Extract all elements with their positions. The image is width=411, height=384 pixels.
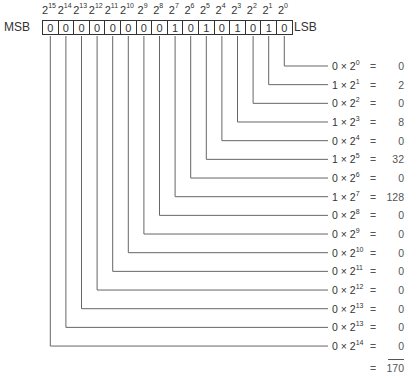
term-expression: 1 × 21 <box>332 78 360 92</box>
times-sign: × <box>341 340 347 352</box>
term-bit: 0 <box>332 265 338 277</box>
term-exponent: 12 <box>356 283 364 290</box>
equals-sign: = <box>370 246 376 260</box>
term-expression: 1 × 25 <box>332 152 360 166</box>
connector-line <box>113 36 328 271</box>
term-exponent: 5 <box>356 152 360 159</box>
term-expression: 0 × 212 <box>332 283 363 297</box>
connector-line <box>66 36 328 327</box>
term-expression: 0 × 29 <box>332 227 360 241</box>
connector-line <box>82 36 329 309</box>
term-bit: 1 <box>332 116 338 128</box>
term-expression: 1 × 23 <box>332 115 360 129</box>
connector-line <box>128 36 328 253</box>
times-sign: × <box>341 284 347 296</box>
equals-sign: = <box>370 283 376 297</box>
equals-sign: = <box>370 152 376 166</box>
term-exponent: 13 <box>356 302 364 309</box>
term-bit: 0 <box>332 209 338 221</box>
connector-line <box>191 36 328 178</box>
term-bit: 1 <box>332 191 338 203</box>
equals-sign: = <box>370 339 376 353</box>
term-expression: 0 × 26 <box>332 171 360 185</box>
term-expression: 0 × 213 <box>332 320 363 334</box>
equals-sign: = <box>370 59 376 73</box>
term-value: 0 <box>398 134 404 148</box>
term-value: 0 <box>398 320 404 334</box>
connector-line <box>238 36 329 122</box>
term-value: 0 <box>398 171 404 185</box>
term-bit: 0 <box>332 60 338 72</box>
term-bit: 0 <box>332 284 338 296</box>
times-sign: × <box>341 135 347 147</box>
times-sign: × <box>341 116 347 128</box>
term-bit: 0 <box>332 321 338 333</box>
term-value: 8 <box>398 115 404 129</box>
connector-line <box>97 36 328 290</box>
times-sign: × <box>341 228 347 240</box>
term-exponent: 7 <box>356 190 360 197</box>
term-exponent: 1 <box>356 78 360 85</box>
equals-sign: = <box>370 208 376 222</box>
term-exponent: 13 <box>356 320 364 327</box>
times-sign: × <box>341 60 347 72</box>
term-bit: 1 <box>332 79 338 91</box>
equals-sign: = <box>370 134 376 148</box>
times-sign: × <box>341 79 347 91</box>
term-value: 0 <box>398 246 404 260</box>
term-bit: 0 <box>332 135 338 147</box>
term-value: 0 <box>398 96 404 110</box>
term-bit: 0 <box>332 340 338 352</box>
term-exponent: 2 <box>356 96 360 103</box>
term-bit: 0 <box>332 97 338 109</box>
connector-line <box>284 36 328 66</box>
connector-line <box>175 36 328 197</box>
term-expression: 0 × 20 <box>332 59 360 73</box>
term-bit: 0 <box>332 228 338 240</box>
term-bit: 1 <box>332 153 338 165</box>
connector-line <box>269 36 328 85</box>
term-expression: 1 × 27 <box>332 190 360 204</box>
term-exponent: 3 <box>356 115 360 122</box>
equals-sign: = <box>370 96 376 110</box>
connector-line <box>160 36 329 215</box>
term-bit: 0 <box>332 247 338 259</box>
term-value: 0 <box>398 264 404 278</box>
equals-sign: = <box>370 302 376 316</box>
term-exponent: 10 <box>356 246 364 253</box>
term-value: 0 <box>398 339 404 353</box>
times-sign: × <box>341 172 347 184</box>
equals-sign: = <box>370 320 376 334</box>
term-exponent: 14 <box>356 339 364 346</box>
term-expression: 0 × 28 <box>332 208 360 222</box>
term-expression: 0 × 210 <box>332 246 363 260</box>
times-sign: × <box>341 209 347 221</box>
total-value: 170 <box>386 361 404 375</box>
term-expression: 0 × 214 <box>332 339 363 353</box>
equals-sign: = <box>370 264 376 278</box>
connector-line <box>253 36 328 103</box>
term-value: 0 <box>398 59 404 73</box>
term-value: 2 <box>398 78 404 92</box>
times-sign: × <box>341 191 347 203</box>
term-exponent: 6 <box>356 171 360 178</box>
times-sign: × <box>341 321 347 333</box>
times-sign: × <box>341 97 347 109</box>
total-equals: = <box>370 361 376 375</box>
term-exponent: 0 <box>356 59 360 66</box>
times-sign: × <box>341 265 347 277</box>
term-value: 0 <box>398 227 404 241</box>
term-expression: 0 × 211 <box>332 264 363 278</box>
term-exponent: 11 <box>356 264 363 271</box>
times-sign: × <box>341 153 347 165</box>
term-value: 0 <box>398 283 404 297</box>
term-expression: 0 × 213 <box>332 302 363 316</box>
equals-sign: = <box>370 227 376 241</box>
equals-sign: = <box>370 190 376 204</box>
term-value: 0 <box>398 208 404 222</box>
term-value: 128 <box>386 190 404 204</box>
term-bit: 0 <box>332 172 338 184</box>
equals-sign: = <box>370 171 376 185</box>
term-value: 32 <box>392 152 404 166</box>
times-sign: × <box>341 247 347 259</box>
